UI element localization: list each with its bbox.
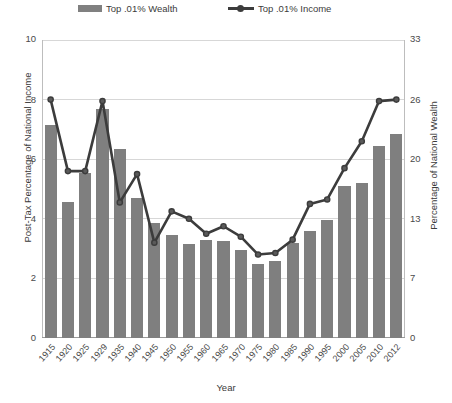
legend-label-income: Top .01% Income xyxy=(258,3,331,14)
income-point-1980 xyxy=(273,250,278,255)
x-axis-title: Year xyxy=(0,382,452,393)
y-left-tick-2: 2 xyxy=(8,272,36,283)
income-point-1955 xyxy=(186,216,191,221)
income-point-1925 xyxy=(83,169,88,174)
legend-item-wealth: Top .01% Wealth xyxy=(78,3,178,14)
chart-legend: Top .01% Wealth Top .01% Income xyxy=(0,2,452,20)
income-point-1920 xyxy=(65,169,70,174)
income-point-1935 xyxy=(117,200,122,205)
bar-swatch-icon xyxy=(78,5,102,12)
income-point-2005 xyxy=(359,139,364,144)
income-point-1975 xyxy=(255,252,260,257)
line-marker-icon xyxy=(228,4,254,13)
income-point-2000 xyxy=(342,166,347,171)
income-point-1940 xyxy=(134,172,139,177)
y-left-tick-0: 0 xyxy=(8,332,36,343)
income-point-1995 xyxy=(325,197,330,202)
y-right-tick-33: 33 xyxy=(410,33,421,44)
income-point-1990 xyxy=(307,201,312,206)
y-axis-left-title: Post-Tax Percentage of National Income xyxy=(22,43,33,273)
income-point-1960 xyxy=(204,231,209,236)
income-point-1945 xyxy=(152,240,157,245)
income-point-1985 xyxy=(290,237,295,242)
income-point-1965 xyxy=(221,224,226,229)
legend-item-income: Top .01% Income xyxy=(228,3,331,14)
legend-label-wealth: Top .01% Wealth xyxy=(106,3,178,14)
income-point-1929 xyxy=(100,98,105,103)
income-point-2010 xyxy=(376,98,381,103)
y-axis-right-title: Percentage of National Wealth xyxy=(428,51,439,281)
wealth-income-chart: Top .01% Wealth Top .01% Income 10 33 8 … xyxy=(0,0,452,403)
income-point-2012 xyxy=(394,97,399,102)
y-right-tick-0: 0 xyxy=(410,332,438,343)
line-series-income xyxy=(42,40,405,338)
income-line-path xyxy=(51,100,397,255)
income-point-1915 xyxy=(48,97,53,102)
income-point-1950 xyxy=(169,209,174,214)
income-point-1970 xyxy=(238,234,243,239)
plot-area xyxy=(42,40,405,338)
x-axis-tick-labels: 1915192019251929193519401945195019551960… xyxy=(42,340,405,380)
